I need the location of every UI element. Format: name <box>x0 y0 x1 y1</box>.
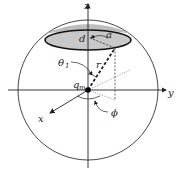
label-a: a <box>106 29 112 40</box>
label-phi: ϕ <box>111 107 118 118</box>
x-axis <box>50 90 88 113</box>
r-vector <box>88 48 115 90</box>
sphere-diagram: z y x d a θ 1 r q m ϕ <box>0 0 176 176</box>
label-z: z <box>83 0 90 11</box>
label-x: x <box>38 113 44 124</box>
diagram-canvas: z y x d a θ 1 r q m ϕ <box>0 0 176 176</box>
theta-leader <box>71 62 92 75</box>
label-q-sub: m <box>79 84 86 92</box>
charge-point <box>85 87 91 93</box>
label-y: y <box>167 87 174 98</box>
phi-leader <box>95 101 108 112</box>
label-theta-sub: 1 <box>65 62 69 70</box>
label-d: d <box>79 33 85 44</box>
label-theta: θ <box>58 57 64 68</box>
phi-arc <box>77 96 100 99</box>
